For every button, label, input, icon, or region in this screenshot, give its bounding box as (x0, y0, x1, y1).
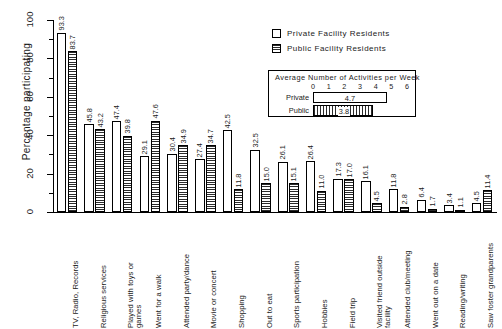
bar-group: 42.511.8 (220, 20, 248, 212)
inset-row-label: Private (271, 93, 309, 102)
x-axis-label: Attended club/meeting (404, 218, 412, 328)
bar-public (123, 136, 133, 212)
bar-value-label: 45.8 (85, 108, 92, 122)
bar-value-label: 43.2 (96, 113, 103, 127)
bar-private (140, 156, 150, 212)
bar-value-label: 11.4 (484, 174, 491, 188)
x-axis-label: Visited friend outside facility (376, 218, 393, 328)
bar-value-label: 27.4 (196, 143, 203, 157)
bar-public (178, 145, 188, 212)
bar-private (57, 33, 67, 212)
bar-group: 47.439.8 (109, 20, 137, 212)
bar-private (84, 124, 94, 212)
bar-group: 30.434.9 (165, 20, 193, 212)
inset-row-label: Public (271, 106, 309, 115)
bar-public (289, 183, 299, 212)
bar-value-label: 47.6 (152, 104, 159, 118)
legend-item-private: Private Facility Residents (272, 26, 390, 41)
bar-value-label: 26.4 (307, 145, 314, 159)
x-axis-label: Went out on a date (432, 218, 440, 328)
x-axis-label: Saw foster grandparents (487, 218, 495, 328)
x-axis-label: Religious services (100, 218, 108, 328)
bar-public (372, 203, 382, 212)
legend-label-public: Public Facility Residents (287, 44, 386, 53)
bar-private (472, 203, 482, 212)
bar-value-label: 6.4 (417, 187, 424, 197)
y-tick-label: 60 (24, 81, 35, 111)
bar-value-label: 34.9 (179, 129, 186, 143)
bar-value-label: 11.8 (390, 174, 397, 188)
bar-value-label: 15.0 (262, 167, 269, 181)
bar-group: 93.383.7 (54, 20, 82, 212)
y-tick-major (47, 212, 53, 213)
y-tick-major (47, 135, 53, 136)
bar-value-label: 30.4 (168, 137, 175, 151)
x-axis-label: Attended party/dance (183, 218, 191, 328)
bar-value-label: 4.5 (373, 191, 380, 201)
y-tick-label: 80 (24, 43, 35, 73)
bar-private (167, 154, 177, 212)
bar-group: 45.843.2 (82, 20, 110, 212)
bar-public (68, 51, 78, 212)
bar-value-label: 1.7 (428, 196, 435, 206)
bar-value-label: 26.1 (279, 146, 286, 160)
bar-public (234, 189, 244, 212)
bar-value-label: 34.7 (207, 129, 214, 143)
bar-private (278, 162, 288, 212)
bar-group: 29.147.6 (137, 20, 165, 212)
inset-scale-tick: 5 (386, 82, 396, 91)
bar-value-label: 93.3 (57, 16, 64, 30)
bar-value-label: 17.0 (345, 163, 352, 177)
legend-item-public: Public Facility Residents (272, 41, 390, 56)
x-axis-label: Shopping (238, 218, 246, 328)
y-tick-minor (49, 116, 53, 117)
inset-bar-value: 3.8 (338, 107, 350, 116)
x-axis-label: Sports participation (293, 218, 301, 328)
bar-private (444, 205, 454, 212)
bar-private (306, 161, 316, 212)
y-tick-major (47, 97, 53, 98)
inset-scale-tick: 0 (308, 82, 318, 91)
inset-panel: Average Number of Activities per Week 01… (268, 70, 416, 117)
bar-value-label: 83.7 (68, 35, 75, 49)
bar-private (250, 150, 260, 212)
legend: Private Facility Residents Public Facili… (272, 26, 390, 56)
y-tick-major (47, 174, 53, 175)
inset-title: Average Number of Activities per Week (275, 73, 420, 82)
inset-scale-tick: 1 (324, 82, 334, 91)
bar-value-label: 42.5 (224, 114, 231, 128)
y-tick-minor (49, 39, 53, 40)
bar-public (261, 183, 271, 212)
y-tick-label: 20 (24, 158, 35, 188)
x-axis-label: Went for a walk (155, 218, 163, 328)
bar-group: 4.511.4 (469, 20, 497, 212)
bar-public (151, 121, 161, 212)
bar-value-label: 29.1 (141, 140, 148, 154)
bar-value-label: 32.5 (251, 133, 258, 147)
y-tick-major (47, 20, 53, 21)
bar-value-label: 47.4 (113, 105, 120, 119)
inset-bar-value: 4.7 (345, 94, 355, 103)
bar-public (344, 179, 354, 212)
bar-private (361, 181, 371, 212)
x-axis-label: Movie or concert (210, 218, 218, 328)
bar-private (195, 159, 205, 212)
x-axis-label: TV, Radio, Records (72, 218, 80, 328)
bar-group: 27.434.7 (192, 20, 220, 212)
bar-value-label: 3.4 (445, 193, 452, 203)
bar-public (400, 207, 410, 212)
y-tick-minor (49, 78, 53, 79)
y-tick-minor (49, 193, 53, 194)
legend-swatch-private-icon (272, 29, 281, 38)
bar-chart: Percentage participating 020406080100 93… (0, 0, 502, 329)
legend-label-private: Private Facility Residents (287, 29, 390, 38)
bar-public (317, 191, 327, 212)
inset-scale-tick: 6 (402, 82, 412, 91)
bar-value-label: 2.8 (401, 194, 408, 204)
x-axis-label: Reading/writing (459, 218, 467, 328)
bar-private (389, 189, 399, 212)
bar-value-label: 16.1 (362, 165, 369, 179)
bar-private (223, 130, 233, 212)
x-axis-line (53, 212, 497, 213)
bar-value-label: 11.8 (235, 174, 242, 188)
